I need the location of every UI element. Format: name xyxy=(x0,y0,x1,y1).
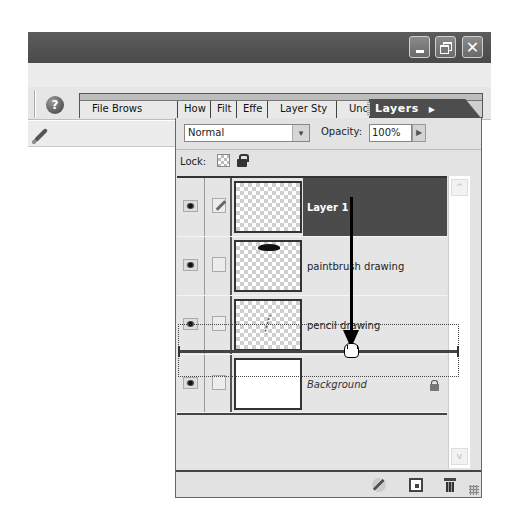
lock-transparency-icon[interactable] xyxy=(217,154,230,167)
layers-scrollbar[interactable]: ^ v xyxy=(448,176,470,468)
insertion-line xyxy=(178,350,459,353)
tab-drag-handle[interactable] xyxy=(367,102,370,116)
minimize-icon xyxy=(416,50,424,53)
delete-layer-icon[interactable] xyxy=(444,478,456,492)
list-end-divider xyxy=(177,413,447,415)
scroll-down-button[interactable]: v xyxy=(451,448,468,465)
close-icon: ✕ xyxy=(466,38,479,57)
layer-style-icon[interactable] xyxy=(372,478,386,492)
lock-icon xyxy=(430,380,439,391)
menu-bar xyxy=(28,63,491,87)
layer-name: Background xyxy=(307,379,367,390)
visibility-cell[interactable] xyxy=(177,237,205,295)
minimize-button[interactable] xyxy=(409,36,430,58)
blend-mode-select[interactable]: Normal ▾ xyxy=(184,124,310,142)
opacity-slider-button[interactable]: ▶ xyxy=(412,124,426,142)
layer-thumbnail xyxy=(234,240,302,292)
tool-options-row xyxy=(28,121,175,147)
eye-icon[interactable] xyxy=(183,259,198,271)
chevron-down-icon[interactable]: ▾ xyxy=(292,125,309,141)
link-cell[interactable] xyxy=(205,237,232,295)
layer-row-paintbrush-drawing[interactable]: paintbrush drawing xyxy=(177,237,447,296)
tab-filter[interactable]: Filt xyxy=(211,101,237,118)
eye-icon[interactable] xyxy=(183,377,198,389)
lock-all-icon[interactable] xyxy=(237,154,247,167)
layers-panel: Normal ▾ Opacity: 100% ▶ Lock: Layer 1 p… xyxy=(175,118,482,498)
restore-icon xyxy=(440,42,451,52)
layer-row-layer-1[interactable]: Layer 1 xyxy=(177,178,447,237)
grab-hand-cursor-icon xyxy=(344,343,359,358)
title-bar: ✕ xyxy=(28,32,491,63)
layers-footer xyxy=(176,470,481,497)
drag-arrow xyxy=(350,197,353,335)
tab-how-to[interactable]: How xyxy=(178,101,211,118)
layer-thumbnail xyxy=(234,181,302,233)
brush-stroke-preview xyxy=(258,244,280,251)
lock-label: Lock: xyxy=(180,156,206,167)
opacity-label: Opacity: xyxy=(321,126,362,137)
tab-effects[interactable]: Effe xyxy=(237,101,268,118)
restore-button[interactable] xyxy=(435,36,456,58)
options-bar-grip[interactable] xyxy=(34,90,36,118)
help-icon[interactable]: ? xyxy=(46,96,64,114)
layer-name-area[interactable]: Layer 1 xyxy=(303,178,447,236)
empty-link-box xyxy=(212,257,226,272)
divider xyxy=(176,149,481,150)
opacity-input[interactable]: 100% xyxy=(369,124,412,142)
tab-layer-styles[interactable]: Layer Sty xyxy=(268,101,337,118)
scroll-up-button[interactable]: ^ xyxy=(451,179,468,196)
layers-list: Layer 1 paintbrush drawing pencil drawin… xyxy=(177,176,447,468)
paintbrush-icon xyxy=(212,198,226,213)
visibility-cell[interactable] xyxy=(177,178,205,236)
resize-grip[interactable] xyxy=(469,485,479,495)
new-layer-icon[interactable] xyxy=(409,478,423,492)
layer-name: Layer 1 xyxy=(307,202,348,213)
tab-layers[interactable]: Layers▶ xyxy=(369,99,481,118)
palette-well: File Brows How Filt Effe Layer Sty Undo … xyxy=(79,93,483,118)
close-button[interactable]: ✕ xyxy=(462,36,483,58)
eye-icon[interactable] xyxy=(183,200,198,212)
empty-link-box xyxy=(212,375,226,390)
link-cell[interactable] xyxy=(205,178,232,236)
tab-file-browser[interactable]: File Brows xyxy=(80,101,178,118)
layer-name: paintbrush drawing xyxy=(307,261,404,272)
layer-name-area[interactable]: paintbrush drawing xyxy=(303,237,447,295)
palette-menu-icon[interactable]: ▶ xyxy=(429,105,436,114)
